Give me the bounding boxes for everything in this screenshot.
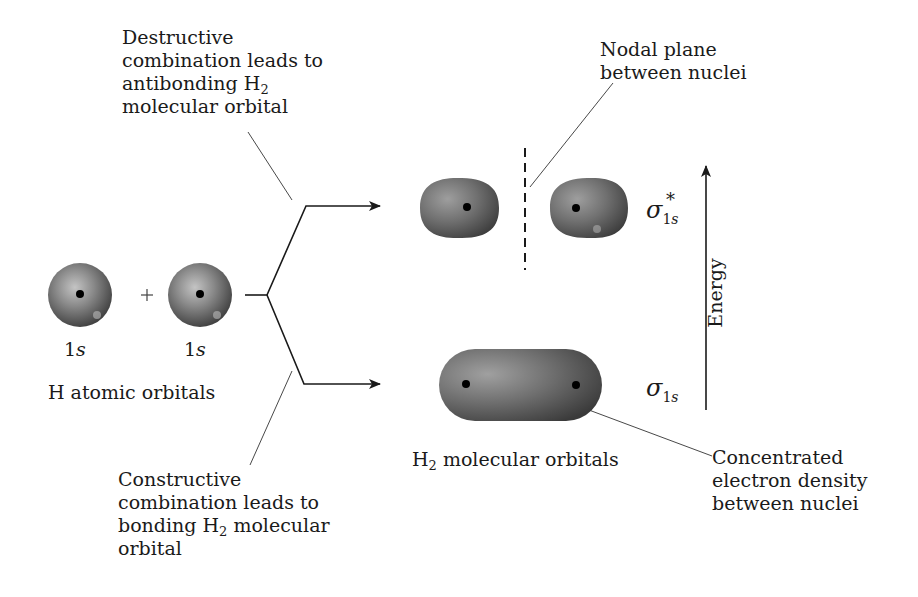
annotation-line: between nuclei [600,61,747,84]
bonding-orbital [439,349,602,421]
antibonding-lobe-left [420,178,499,238]
annotation-line: electron density [712,469,867,492]
nucleus-icon [463,203,471,211]
annotation-line: between nuclei [712,492,867,515]
annotation-line: Nodal plane [600,38,747,61]
atomic-orbitals-caption: H atomic orbitals [48,381,215,404]
nucleus-icon [572,204,580,212]
annotation-line: molecular orbital [122,95,323,118]
annotation-line: combination leads to [118,491,330,514]
nucleus-icon [196,290,204,298]
branch-connector [245,206,380,384]
plus-sign [141,289,153,301]
molecular-orbitals-caption: H2 molecular orbitals [412,448,619,471]
leader-line-nodal [530,83,613,187]
annotation-line: Concentrated [712,446,867,469]
energy-axis-label: Energy [704,258,726,327]
nucleus-icon [572,381,580,389]
nucleus-icon [76,290,84,298]
annotation-nodal-plane: Nodal plane between nuclei [600,38,747,84]
annotation-line: antibonding H2 [122,72,323,95]
annotation-line: combination leads to [122,49,323,72]
annotation-destructive: Destructive combination leads to antibon… [122,26,323,118]
h-atomic-orbital-right [168,263,232,327]
arrow-to-antibonding [267,206,380,295]
annotation-line: Destructive [122,26,323,49]
antibonding-lobe-right [550,178,628,238]
antibonding-symbol: σ*1s [646,198,679,225]
leader-line-constructive [250,371,292,465]
annotation-line: orbital [118,537,330,560]
h-atomic-orbital-left [48,263,112,327]
annotation-line: bonding H2 molecular [118,514,330,537]
leader-line-destructive [248,132,292,200]
annotation-line: Constructive [118,468,330,491]
bonding-symbol: σ1s [646,376,679,403]
atomic-label-right: 1s [184,338,206,361]
arrow-to-bonding [267,295,380,384]
annotation-concentrated: Concentrated electron density between nu… [712,446,867,515]
nucleus-icon [462,380,470,388]
atomic-label-left: 1s [64,338,86,361]
annotation-constructive: Constructive combination leads to bondin… [118,468,330,560]
